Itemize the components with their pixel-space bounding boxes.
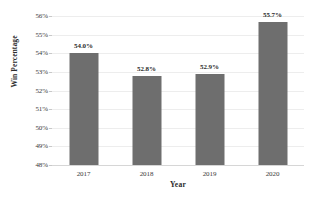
bar (69, 53, 98, 165)
bar-value-label: 55.7% (263, 11, 282, 19)
y-tick-label: 54% (35, 49, 48, 57)
gridline (52, 165, 304, 166)
x-tick-label: 2018 (140, 170, 154, 178)
bar (132, 76, 161, 165)
y-tick-label: 53% (35, 68, 48, 76)
bar-value-label: 52.8% (137, 65, 156, 73)
plot-area: 56%55%54%53%52%51%50%49%48% 54.0%201752.… (52, 16, 304, 165)
chart-title-remnant (0, 0, 312, 3)
y-tick-label: 56% (35, 12, 48, 20)
y-tick-label: 50% (35, 124, 48, 132)
bar-group: 52.9%2019 (178, 16, 241, 165)
bar-value-label: 52.9% (200, 63, 219, 71)
bar-group: 55.7%2020 (241, 16, 304, 165)
x-tick-label: 2020 (266, 170, 280, 178)
bar-value-label: 54.0% (74, 42, 93, 50)
bar (195, 74, 224, 165)
y-tick-label: 49% (35, 142, 48, 150)
bar-group: 52.8%2018 (115, 16, 178, 165)
y-axis-title: Win Percentage (10, 0, 19, 132)
y-tick-label: 48% (35, 161, 48, 169)
bar (258, 22, 287, 165)
y-tick-label: 52% (35, 87, 48, 95)
x-axis-title: Year (52, 180, 304, 189)
bar-group: 54.0%2017 (52, 16, 115, 165)
y-tick-mark (49, 165, 52, 166)
y-tick-label: 55% (35, 31, 48, 39)
x-tick-label: 2017 (77, 170, 91, 178)
y-tick-label: 51% (35, 105, 48, 113)
bar-chart: Win Percentage 56%55%54%53%52%51%50%49%4… (0, 0, 312, 199)
x-tick-label: 2019 (203, 170, 217, 178)
